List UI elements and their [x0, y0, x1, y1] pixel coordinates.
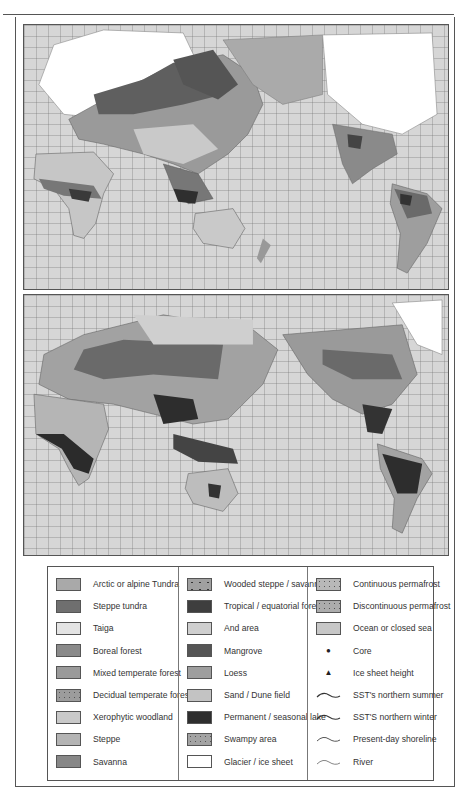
page-top-rule: [3, 14, 454, 15]
legend-label: Mangrove: [224, 646, 262, 656]
triangle-icon: ▲: [316, 666, 341, 679]
top-map-landmasses: [24, 25, 448, 289]
legend-label: Decidual temperate forest: [93, 690, 191, 700]
legend-item-sst-winter: SST'S northern winter: [308, 706, 433, 728]
wave-line-icon: [316, 711, 341, 724]
legend-label: And area: [224, 623, 259, 633]
legend-label: Ice sheet height: [353, 668, 414, 678]
wave-line-icon: [316, 755, 341, 768]
map-legend: Arctic or alpine Tundra Steppe tundra Ta…: [47, 566, 434, 781]
legend-label: SST'S northern winter: [353, 712, 437, 722]
legend-label: Taiga: [93, 623, 114, 633]
bottom-map-landmasses: [24, 295, 448, 555]
legend-item-loess: Loess: [179, 662, 307, 684]
swatch-boreal-forest: [56, 644, 81, 657]
swatch-loess: [187, 666, 212, 679]
legend-label: Continuous permafrost: [353, 579, 440, 589]
legend-item-swampy-area: Swampy area: [179, 728, 307, 750]
legend-item-arctic-tundra: Arctic or alpine Tundra: [48, 573, 178, 595]
legend-label: Xerophytic woodland: [93, 712, 173, 722]
legend-item-steppe-tundra: Steppe tundra: [48, 595, 178, 617]
legend-item-savanna: Savanna: [48, 751, 178, 773]
swatch-ocean: [316, 622, 341, 635]
legend-label: Arctic or alpine Tundra: [93, 579, 179, 589]
legend-label: Discontinuous permafrost: [353, 601, 450, 611]
legend-item-glacier: Glacier / ice sheet: [179, 751, 307, 773]
legend-item-shoreline: Present-day shoreline: [308, 728, 433, 750]
swatch-xerophytic-woodland: [56, 711, 81, 724]
legend-label: Swampy area: [224, 734, 277, 744]
legend-item-ocean: Ocean or closed sea: [308, 617, 433, 639]
swatch-mangrove: [187, 644, 212, 657]
legend-item-tropical-forest: Tropical / equatorial forest: [179, 595, 307, 617]
legend-column-2: Wooded steppe / savanna Tropical / equat…: [178, 567, 307, 780]
swatch-swampy-area: [187, 733, 212, 746]
legend-item-taiga: Taiga: [48, 617, 178, 639]
legend-label: Sand / Dune field: [224, 690, 290, 700]
legend-item-sst-summer: SST's northern summer: [308, 684, 433, 706]
legend-item-discontinuous-permafrost: Discontinuous permafrost: [308, 595, 433, 617]
legend-column-3: Continuous permafrost Discontinuous perm…: [307, 567, 433, 780]
swatch-discontinuous-permafrost: [316, 600, 341, 613]
legend-label: Savanna: [93, 757, 127, 767]
legend-label: Glacier / ice sheet: [224, 757, 293, 767]
legend-item-decidual-temperate-forest: Decidual temperate forest: [48, 684, 178, 706]
wave-line-icon: [316, 733, 341, 746]
legend-label: Steppe tundra: [93, 601, 147, 611]
swatch-arctic-tundra: [56, 578, 81, 591]
legend-item-arid-area: And area: [179, 617, 307, 639]
core-dot-icon: ●: [316, 644, 341, 657]
swatch-mixed-temperate-forest: [56, 666, 81, 679]
legend-item-core: ● Core: [308, 640, 433, 662]
swatch-lake: [187, 711, 212, 724]
top-map-panel: [23, 24, 449, 290]
legend-item-river: River: [308, 751, 433, 773]
legend-item-sand-dune: Sand / Dune field: [179, 684, 307, 706]
legend-label: Core: [353, 646, 372, 656]
legend-label: Loess: [224, 668, 247, 678]
swatch-glacier: [187, 755, 212, 768]
legend-item-boreal-forest: Boreal forest: [48, 640, 178, 662]
legend-label: Boreal forest: [93, 646, 142, 656]
legend-item-continuous-permafrost: Continuous permafrost: [308, 573, 433, 595]
legend-item-mixed-temperate-forest: Mixed temperate forest: [48, 662, 178, 684]
swatch-continuous-permafrost: [316, 578, 341, 591]
bottom-map-panel: [23, 294, 449, 556]
wave-line-icon: [316, 689, 341, 702]
legend-label: Present-day shoreline: [353, 734, 437, 744]
swatch-arid-area: [187, 622, 212, 635]
legend-item-wooded-steppe: Wooded steppe / savanna: [179, 573, 307, 595]
swatch-steppe: [56, 733, 81, 746]
legend-label: Ocean or closed sea: [353, 623, 432, 633]
swatch-taiga: [56, 622, 81, 635]
legend-label: River: [353, 757, 373, 767]
swatch-sand-dune: [187, 689, 212, 702]
swatch-steppe-tundra: [56, 600, 81, 613]
swatch-wooded-steppe: [187, 578, 212, 591]
legend-item-mangrove: Mangrove: [179, 640, 307, 662]
swatch-tropical-forest: [187, 600, 212, 613]
legend-label: Steppe: [93, 734, 120, 744]
swatch-savanna: [56, 755, 81, 768]
legend-column-1: Arctic or alpine Tundra Steppe tundra Ta…: [48, 567, 178, 780]
legend-item-steppe: Steppe: [48, 728, 178, 750]
legend-label: Mixed temperate forest: [93, 668, 181, 678]
legend-item-ice-sheet-height: ▲ Ice sheet height: [308, 662, 433, 684]
legend-label: SST's northern summer: [353, 690, 443, 700]
legend-item-xerophytic-woodland: Xerophytic woodland: [48, 706, 178, 728]
legend-item-lake: Permanent / seasonal lake: [179, 706, 307, 728]
swatch-decidual-temperate-forest: [56, 689, 81, 702]
